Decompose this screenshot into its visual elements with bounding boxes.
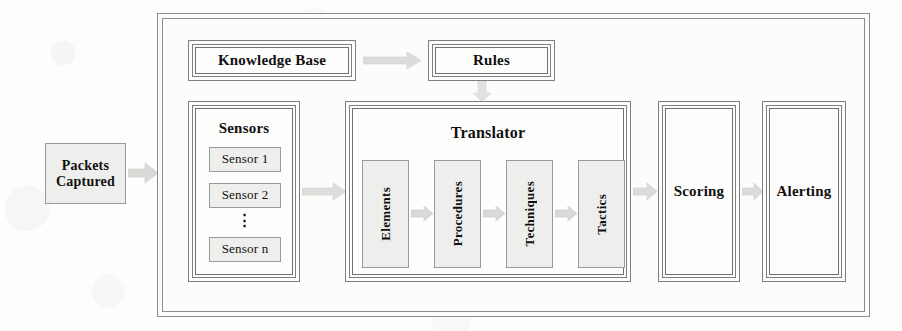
knowledge-base-label: Knowledge Base bbox=[218, 52, 326, 69]
translator-stage-elements-label: Elements bbox=[378, 187, 394, 241]
sensor-item-2: Sensor 2 bbox=[209, 183, 281, 208]
alerting-group: Alerting bbox=[762, 101, 846, 282]
arrow-kb-to-rules-icon bbox=[363, 51, 421, 70]
arrow-scoring-to-alerting-icon bbox=[742, 182, 763, 201]
arrow-sensors-to-translator-icon bbox=[302, 182, 346, 201]
arrow-translator-to-scoring-icon bbox=[633, 182, 657, 201]
translator-stage-elements: Elements bbox=[362, 160, 409, 268]
knowledge-base-box: Knowledge Base bbox=[195, 47, 349, 74]
packets-captured-label: Packets Captured bbox=[56, 158, 115, 189]
scoring-group: Scoring bbox=[658, 101, 740, 282]
rules-label: Rules bbox=[473, 52, 510, 69]
alerting-box: Alerting bbox=[769, 108, 839, 275]
translator-group: Translator Elements Procedures bbox=[345, 101, 631, 282]
arrow-packets-to-system-icon bbox=[128, 162, 158, 184]
translator-stage-tactics-label: Tactics bbox=[594, 194, 610, 235]
sensors-group: Sensors Sensor 1 Sensor 2 ⋮ Sensor n bbox=[188, 101, 300, 282]
knowledge-base-group: Knowledge Base bbox=[188, 40, 356, 81]
translator-stage-techniques: Techniques bbox=[506, 160, 553, 268]
alerting-label: Alerting bbox=[777, 183, 832, 200]
rules-group: Rules bbox=[428, 40, 555, 81]
scoring-box: Scoring bbox=[665, 108, 733, 275]
arrow-rules-to-translator-icon bbox=[472, 81, 492, 102]
arrow-elements-to-procedures-icon bbox=[411, 205, 433, 222]
sensor-item-n-label: Sensor n bbox=[222, 242, 269, 257]
sensor-item-2-label: Sensor 2 bbox=[222, 188, 269, 203]
sensors-box: Sensors Sensor 1 Sensor 2 ⋮ Sensor n bbox=[195, 108, 293, 275]
sensors-ellipsis: ⋮ bbox=[196, 213, 292, 228]
sensor-item-1: Sensor 1 bbox=[209, 147, 281, 172]
sensor-item-1-label: Sensor 1 bbox=[222, 152, 269, 167]
translator-stage-procedures-label: Procedures bbox=[450, 181, 466, 246]
diagram-canvas: Packets Captured Knowledge Base Rules bbox=[0, 0, 902, 331]
sensors-title: Sensors bbox=[196, 120, 292, 137]
translator-stage-procedures: Procedures bbox=[434, 160, 481, 268]
arrow-procedures-to-techniques-icon bbox=[483, 205, 505, 222]
translator-stage-techniques-label: Techniques bbox=[522, 181, 538, 246]
translator-title: Translator bbox=[353, 124, 623, 142]
packets-captured-box: Packets Captured bbox=[45, 143, 126, 204]
translator-stage-tactics: Tactics bbox=[578, 160, 625, 268]
arrow-techniques-to-tactics-icon bbox=[555, 205, 577, 222]
rules-box: Rules bbox=[435, 47, 548, 74]
scoring-label: Scoring bbox=[674, 183, 725, 200]
sensor-item-n: Sensor n bbox=[209, 237, 281, 262]
translator-box: Translator Elements Procedures bbox=[352, 108, 624, 275]
